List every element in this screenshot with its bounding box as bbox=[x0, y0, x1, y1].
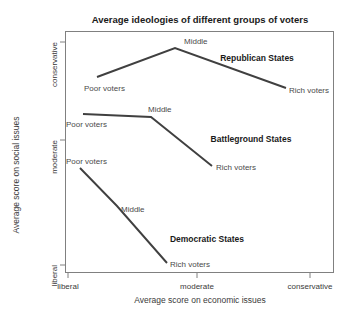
y-tick-label-conservative: conservative bbox=[50, 41, 59, 86]
battleground-middle-label: Middle bbox=[148, 105, 172, 114]
voter-ideology-chart: Average ideologies of different groups o… bbox=[0, 0, 355, 316]
chart-figure: Average ideologies of different groups o… bbox=[0, 0, 355, 316]
x-tick-label-conservative: conservative bbox=[288, 282, 333, 291]
democratic-middle-label: Middle bbox=[121, 205, 145, 214]
chart-title: Average ideologies of different groups o… bbox=[92, 14, 309, 25]
x-tick-label-liberal: liberal bbox=[57, 282, 79, 291]
battleground-rich-voters-label: Rich voters bbox=[216, 163, 256, 172]
republican-states-group-label: Republican States bbox=[220, 53, 294, 63]
x-tick-label-moderate: moderate bbox=[180, 282, 214, 291]
democratic-rich-voters-label: Rich voters bbox=[170, 260, 210, 269]
x-axis-title: Average score on economic issues bbox=[134, 295, 266, 305]
y-tick-label-moderate: moderate bbox=[50, 139, 59, 173]
democratic-poor-voters-label: Poor voters bbox=[66, 157, 107, 166]
republican-middle-label: Middle bbox=[184, 37, 208, 46]
y-axis-title: Average score on social issues bbox=[11, 116, 21, 233]
republican-poor-voters-label: Poor voters bbox=[84, 84, 125, 93]
battleground-states-group-label: Battleground States bbox=[211, 134, 292, 144]
battleground-poor-voters-label: Poor voters bbox=[66, 120, 107, 129]
democratic-states-group-label: Democratic States bbox=[170, 234, 244, 244]
republican-rich-voters-label: Rich voters bbox=[289, 86, 329, 95]
democratic-states-line bbox=[80, 168, 167, 263]
